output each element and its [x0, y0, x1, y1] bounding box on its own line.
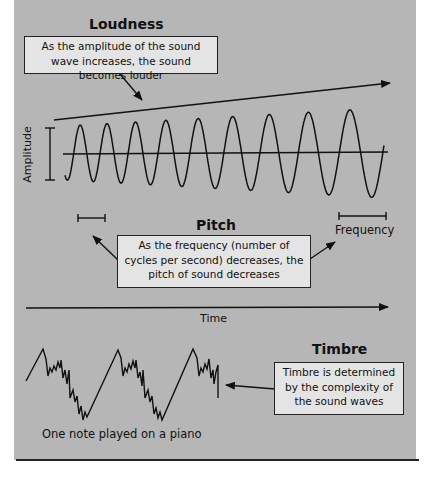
frequency-bracket-long	[339, 212, 386, 220]
pitch-arrow-right	[310, 242, 335, 259]
loudness-description-box: As the amplitude of the sound wave incre…	[24, 36, 218, 74]
time-axis-label: Time	[200, 312, 227, 325]
frequency-bracket-short	[78, 214, 105, 222]
pitch-heading: Pitch	[196, 217, 236, 233]
piano-caption: One note played on a piano	[42, 427, 202, 441]
amplitude-label: Amplitude	[21, 125, 34, 185]
time-arrow	[26, 307, 388, 308]
amplitude-bracket	[45, 128, 55, 180]
piano-waveform	[26, 349, 218, 420]
timbre-arrow	[226, 385, 275, 389]
timbre-heading: Timbre	[312, 341, 367, 357]
loudness-trend-arrow	[54, 83, 390, 120]
pitch-description-box: As the frequency (number of cycles per s…	[117, 235, 311, 288]
timbre-description-box: Timbre is determined by the complexity o…	[274, 362, 404, 415]
loudness-heading: Loudness	[89, 16, 164, 32]
frequency-label: Frequency	[335, 223, 394, 237]
pitch-arrow-left	[93, 236, 118, 260]
